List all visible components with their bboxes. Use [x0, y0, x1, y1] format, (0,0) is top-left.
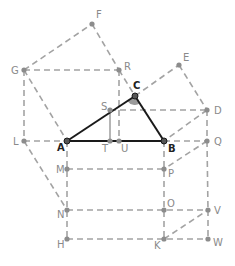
dashed-segment-fr — [92, 24, 119, 70]
point-o — [161, 207, 166, 212]
label-o: O — [167, 198, 175, 209]
label-m: M — [56, 164, 65, 175]
point-n — [64, 207, 69, 212]
point-m — [64, 166, 69, 171]
point-p — [161, 166, 166, 171]
dashed-segment-ce — [135, 65, 179, 96]
label-k: K — [154, 240, 161, 251]
label-u: U — [121, 143, 128, 154]
dashed-segment-kv — [164, 210, 208, 239]
label-a: A — [57, 142, 65, 153]
label-g: G — [11, 65, 19, 76]
geometry-diagram: FGRECDSLATUBQMPNOVHKW — [0, 0, 235, 266]
label-h: H — [57, 239, 65, 250]
label-l: L — [13, 136, 19, 147]
point-r — [116, 67, 121, 72]
label-t: T — [101, 143, 109, 154]
dashed-segment-ed — [179, 65, 207, 110]
label-f: F — [96, 9, 102, 20]
side-cb — [135, 96, 164, 141]
label-e: E — [183, 52, 189, 63]
label-b: B — [168, 143, 176, 154]
triangle-abc — [67, 96, 164, 141]
point-l — [21, 138, 26, 143]
label-d: D — [214, 105, 222, 116]
label-r: R — [124, 61, 131, 72]
label-s: S — [101, 101, 107, 112]
point-t — [107, 138, 112, 143]
point-d — [204, 107, 209, 112]
label-q: Q — [214, 136, 222, 147]
label-v: V — [214, 205, 221, 216]
point-w — [205, 236, 210, 241]
dashed-segment-db — [164, 110, 207, 141]
label-c: C — [133, 80, 140, 91]
point-a — [64, 138, 70, 144]
point-e — [176, 62, 181, 67]
point-f — [89, 21, 94, 26]
point-v — [205, 207, 210, 212]
dashed-segment-qv — [207, 141, 208, 210]
point-labels: FGRECDSLATUBQMPNOVHKW — [11, 9, 223, 251]
point-s — [107, 107, 112, 112]
label-n: N — [57, 209, 64, 220]
label-p: P — [168, 168, 174, 179]
point-h — [64, 236, 69, 241]
point-g — [21, 67, 26, 72]
point-b — [161, 138, 167, 144]
label-w: W — [213, 237, 223, 248]
point-q — [204, 138, 209, 143]
dashed-segment-gf — [24, 24, 92, 70]
dashed-segment-ga — [24, 70, 67, 141]
point-k — [161, 236, 166, 241]
dashed-construction-lines — [24, 24, 208, 239]
point-c — [132, 93, 138, 99]
